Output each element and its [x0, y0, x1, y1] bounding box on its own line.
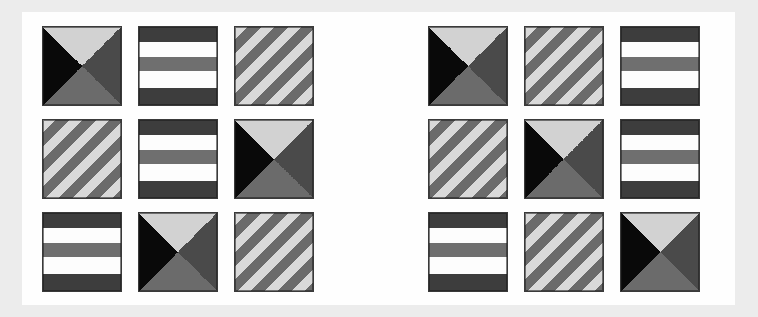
tile-x[interactable]: [138, 212, 218, 292]
tile-x[interactable]: [524, 119, 604, 199]
tile-bands[interactable]: [620, 26, 700, 106]
tile-bands[interactable]: [138, 26, 218, 106]
tile-bands[interactable]: [428, 212, 508, 292]
tile-bands[interactable]: [138, 119, 218, 199]
tile-x[interactable]: [428, 26, 508, 106]
stage: [0, 0, 758, 317]
tile-diag[interactable]: [428, 119, 508, 199]
tile-bands[interactable]: [42, 212, 122, 292]
white-card: [22, 12, 735, 305]
tile-diag[interactable]: [42, 119, 122, 199]
tile-x[interactable]: [620, 212, 700, 292]
tile-x[interactable]: [234, 119, 314, 199]
tile-diag[interactable]: [524, 212, 604, 292]
tile-bands[interactable]: [620, 119, 700, 199]
tile-diag[interactable]: [234, 26, 314, 106]
tile-x[interactable]: [42, 26, 122, 106]
right-grid: [428, 26, 700, 292]
left-grid: [42, 26, 314, 292]
tile-diag[interactable]: [234, 212, 314, 292]
tile-diag[interactable]: [524, 26, 604, 106]
